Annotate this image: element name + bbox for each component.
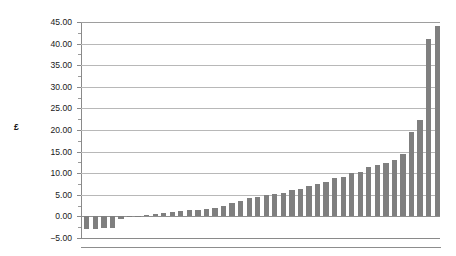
y-axis-tick-labels: 45.0040.0035.0030.0025.0020.0015.0010.00…: [26, 0, 72, 256]
bar: [127, 216, 132, 217]
y-axis-tick-label: 30.00: [26, 82, 72, 92]
bar: [392, 160, 397, 216]
bar: [323, 182, 328, 217]
bar: [178, 211, 183, 216]
y-axis-tick-label: 10.00: [26, 168, 72, 178]
bars-layer: [81, 22, 440, 238]
bar: [358, 172, 363, 216]
bar: [135, 216, 140, 217]
bar: [400, 154, 405, 217]
y-axis-tick-label: 20.00: [26, 125, 72, 135]
bar: [383, 163, 388, 216]
y-axis-tick-label: 35.00: [26, 60, 72, 70]
bar: [118, 216, 123, 218]
y-axis-tick-label: 40.00: [26, 39, 72, 49]
bar: [264, 195, 269, 217]
bar: [247, 198, 252, 216]
bar: [170, 212, 175, 216]
bar: [195, 210, 200, 216]
bar: [306, 186, 311, 216]
bar: [375, 165, 380, 217]
bar: [255, 197, 260, 216]
bar: [84, 216, 89, 229]
bar: [289, 190, 294, 216]
bar-chart: £ 45.0040.0035.0030.0025.0020.0015.0010.…: [0, 0, 456, 256]
bar: [212, 208, 217, 217]
y-axis-unit-label: £: [14, 122, 19, 132]
bar: [93, 216, 98, 229]
bar: [272, 194, 277, 217]
bar: [341, 177, 346, 217]
y-axis-tick-label: 25.00: [26, 103, 72, 113]
bar: [187, 210, 192, 216]
y-axis-tick-label: 15.00: [26, 147, 72, 157]
y-axis-tick-label: 45.00: [26, 17, 72, 27]
bar: [435, 26, 440, 216]
bar: [238, 201, 243, 216]
bar: [153, 214, 158, 216]
bar: [204, 209, 209, 216]
bar: [281, 193, 286, 217]
y-axis-tick-label: 0.00: [26, 211, 72, 221]
bar: [366, 167, 371, 217]
y-axis-tick-label: 5.00: [26, 190, 72, 200]
y-axis-tick-label: −5.00: [26, 233, 72, 243]
bar: [110, 216, 115, 227]
bar: [221, 206, 226, 216]
bar: [417, 120, 422, 216]
bar: [332, 178, 337, 216]
bar: [349, 173, 354, 216]
bar: [101, 216, 106, 227]
chart-bottom-rule: [81, 247, 441, 248]
bar: [409, 132, 414, 216]
y-axis-tickmark: [77, 238, 81, 239]
bar: [426, 39, 431, 216]
bar: [298, 189, 303, 216]
gridline: [81, 238, 440, 239]
bar: [315, 184, 320, 216]
bar: [144, 215, 149, 216]
bar: [229, 203, 234, 216]
bar: [161, 213, 166, 216]
plot-area: [81, 22, 440, 238]
